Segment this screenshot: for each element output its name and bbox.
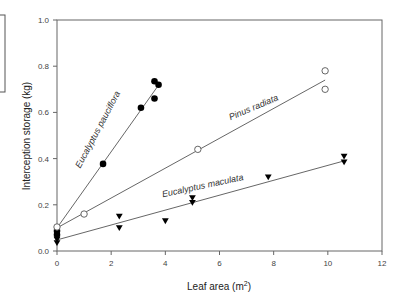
data-points (54, 68, 348, 246)
open-circle-marker (54, 224, 60, 230)
y-axis-title: Interception storage (kg) (21, 82, 32, 190)
triangle-marker (162, 218, 169, 224)
chart: 024681012 0.00.20.40.60.81.0 Eucalyptus … (0, 0, 405, 305)
y-tick-label: 0.2 (38, 201, 50, 210)
filled-circle-marker (138, 104, 145, 111)
x-tick-label: 2 (109, 259, 114, 268)
filled-circle-marker (151, 95, 158, 102)
series-label: Eucalyptus maculata (161, 172, 244, 199)
triangle-marker (116, 225, 123, 231)
open-circle-marker (195, 146, 201, 152)
y-tick-label: 0.4 (38, 155, 50, 164)
open-circle-marker (322, 86, 328, 92)
triangle-marker (54, 240, 61, 246)
triangle-marker (189, 200, 196, 206)
filled-circle-marker (100, 161, 107, 168)
series-labels: Eucalyptus paucifloraPinus radiataEucaly… (73, 89, 279, 199)
fit-line (57, 161, 344, 240)
filled-circle-marker (155, 81, 162, 88)
x-axis-title: Leaf area (m2) (187, 280, 251, 292)
triangle-marker (341, 159, 348, 165)
open-circle-marker (81, 211, 87, 217)
triangle-marker (341, 154, 348, 160)
cropped-legend-box (0, 15, 5, 92)
triangle-marker (265, 174, 272, 180)
x-tick-label: 4 (163, 259, 168, 268)
fit-line (57, 80, 325, 228)
series-label: Eucalyptus pauciflora (73, 89, 122, 169)
y-axis: 0.00.20.40.60.81.0 (38, 16, 57, 256)
plot-area (57, 20, 382, 251)
y-tick-label: 0.0 (38, 247, 50, 256)
open-circle-marker (322, 68, 328, 74)
x-tick-label: 12 (378, 259, 387, 268)
y-tick-label: 1.0 (38, 16, 50, 25)
y-tick-label: 0.6 (38, 108, 50, 117)
triangle-marker (116, 214, 123, 220)
x-tick-label: 0 (55, 259, 60, 268)
x-axis: 024681012 (55, 251, 387, 268)
y-tick-label: 0.8 (38, 62, 50, 71)
x-tick-label: 10 (323, 259, 332, 268)
x-tick-label: 6 (217, 259, 222, 268)
x-tick-label: 8 (271, 259, 276, 268)
series-label: Pinus radiata (227, 92, 279, 122)
fit-lines (57, 80, 344, 240)
